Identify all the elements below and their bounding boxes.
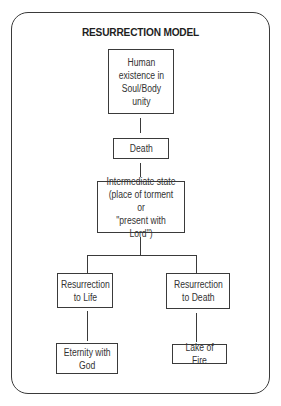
connector-life-eternity [87,311,88,341]
node-eternity-with-god: Eternity with God [56,343,118,374]
node-death: Death [113,138,169,159]
node-death-label: Death [130,142,153,155]
connector-death-lake [196,313,197,342]
node-resurrection-to-death: Resurrection to Death [166,273,230,309]
connector-human-death [140,118,141,133]
node-human-existence-label: Human existence in Soul/Body unity [118,56,163,108]
diagram-title: RESURRECTION MODEL [17,26,264,38]
node-intermediate-state-label: Intermediate state (place of torment or … [106,175,177,240]
node-intermediate-state: Intermediate state (place of torment or … [97,181,185,233]
node-lake-of-fire-label: Lake of Fire [178,341,220,367]
node-lake-of-fire: Lake of Fire [172,344,227,364]
node-resurrection-to-death-label: Resurrection to Death [174,278,223,304]
connector-intermediate-branch [140,237,141,255]
node-eternity-with-god-label: Eternity with God [64,346,111,372]
node-resurrection-to-life-label: Resurrection to Life [61,278,110,304]
connector-branch-left [87,255,88,273]
connector-branch-horizontal [87,255,197,256]
node-resurrection-to-life: Resurrection to Life [57,273,113,308]
node-human-existence: Human existence in Soul/Body unity [108,49,174,114]
connector-branch-right [196,255,197,273]
